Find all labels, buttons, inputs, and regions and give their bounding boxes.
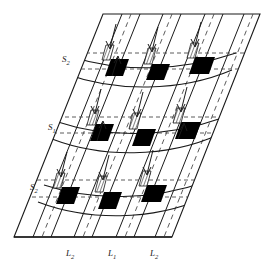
diagram-canvas: S2 S1 S2 L2 L1 L2 — [0, 0, 271, 267]
label-s1-middle: S1 — [48, 122, 56, 134]
label-l1-center: L1 — [107, 248, 116, 260]
slip-band-diagram: S2 S1 S2 L2 L1 L2 — [0, 0, 271, 267]
label-l2-right: L2 — [149, 248, 159, 260]
lane-label-group: L2 L1 L2 — [65, 248, 159, 260]
label-l2-left: L2 — [65, 248, 75, 260]
label-s2-top: S2 — [62, 54, 71, 66]
